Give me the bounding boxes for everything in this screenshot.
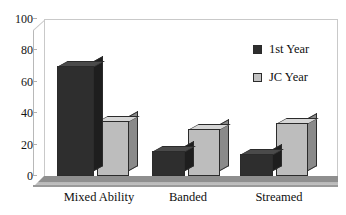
x-label-banded: Banded — [143, 190, 233, 204]
y-tick-20: 20 — [0, 139, 33, 151]
bar-mixed-ability-1st-year[interactable] — [57, 66, 94, 176]
y-tick-40: 40 — [0, 107, 33, 119]
bar-streamed-1st-year[interactable] — [240, 154, 273, 176]
chart-floor-front — [33, 185, 338, 187]
y-tick-mark — [33, 144, 37, 145]
legend-swatch-icon — [253, 45, 262, 54]
bar-face — [240, 154, 273, 176]
axis-depth-connector — [33, 19, 45, 31]
x-label-mixed-ability: Mixed Ability — [44, 190, 154, 204]
bar-chart: 100 80 60 40 20 0 — [0, 0, 346, 215]
y-tick-mark — [33, 49, 37, 50]
y-tick-80: 80 — [0, 44, 33, 56]
bar-face — [57, 66, 94, 176]
legend-item-1st-year[interactable]: 1st Year — [253, 40, 337, 59]
bar-side — [94, 56, 103, 171]
bar-face — [152, 151, 185, 176]
y-tick-60: 60 — [0, 76, 33, 88]
legend-label: JC Year — [269, 71, 308, 84]
x-label-streamed: Streamed — [231, 190, 327, 204]
y-tick-mark — [33, 81, 37, 82]
chart-floor — [33, 176, 338, 187]
y-tick-100: 100 — [0, 13, 33, 25]
y-tick-0: 0 — [0, 170, 33, 182]
bar-banded-1st-year[interactable] — [152, 151, 185, 176]
legend: 1st Year JC Year — [253, 40, 337, 96]
legend-item-jc-year[interactable]: JC Year — [253, 68, 337, 87]
y-tick-label: 80 — [4, 44, 33, 56]
y-tick-label: 60 — [4, 76, 33, 88]
plot-back-wall-edge — [44, 19, 45, 176]
y-axis-line — [33, 30, 34, 176]
y-tick-mark — [33, 18, 37, 19]
legend-label: 1st Year — [269, 43, 309, 56]
y-tick-label: 20 — [4, 139, 33, 151]
legend-swatch-icon — [253, 73, 262, 82]
y-tick-label: 0 — [4, 170, 33, 182]
chart-title-remnant — [92, 0, 268, 5]
y-tick-label: 100 — [4, 13, 33, 25]
y-tick-mark — [33, 112, 37, 113]
y-tick-label: 40 — [4, 107, 33, 119]
